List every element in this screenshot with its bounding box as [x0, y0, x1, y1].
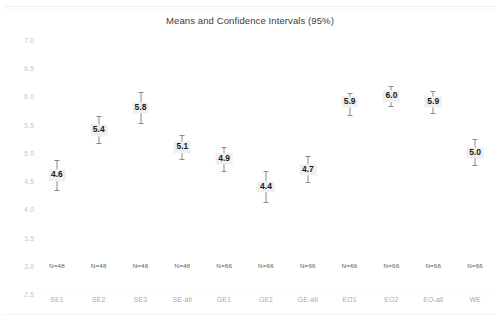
error-bar-SE-all[interactable]: 5.1 — [162, 135, 202, 160]
ci-upper-cap — [473, 139, 478, 140]
ci-lower-cap — [347, 115, 352, 116]
ci-lower-cap — [431, 113, 436, 114]
ci-lower-cap — [96, 143, 101, 144]
ci-upper-cap — [264, 171, 269, 172]
ci-lower-cap — [264, 202, 269, 203]
ci-lower-cap — [389, 106, 394, 107]
mean-value-label-SE-all: 5.1 — [174, 142, 191, 153]
error-bar-series: 4.65.45.85.14.94.44.75.96.05.95.0 — [36, 40, 496, 294]
y-axis-tick-6.5: 6.5 — [10, 65, 34, 72]
sample-size-WE: N=66 — [445, 262, 500, 269]
error-bar-GE-all[interactable]: 4.7 — [288, 156, 328, 183]
mean-value-label-WE: 5.0 — [467, 147, 484, 158]
bottom-divider — [4, 314, 496, 315]
error-bar-SE2[interactable]: 5.4 — [79, 116, 119, 145]
error-bar-EO-all[interactable]: 5.9 — [413, 91, 453, 114]
error-bar-SE3[interactable]: 5.8 — [121, 92, 161, 124]
x-axis-line — [36, 288, 496, 289]
y-axis-tick-3.5: 3.5 — [10, 234, 34, 241]
mean-value-label-SE3: 5.8 — [132, 102, 149, 113]
ci-upper-cap — [180, 135, 185, 136]
plot-area: 4.65.45.85.14.94.44.75.96.05.95.0 — [36, 40, 496, 294]
ci-upper-cap — [96, 116, 101, 117]
ci-upper-cap — [389, 86, 394, 87]
top-divider-secondary — [4, 9, 496, 10]
ci-upper-cap — [305, 156, 310, 157]
ci-upper-cap — [431, 91, 436, 92]
error-bar-EO1[interactable]: 5.9 — [330, 93, 370, 116]
mean-value-label-EO-all: 5.9 — [425, 96, 442, 107]
ci-upper-cap — [138, 92, 143, 93]
y-axis-tick-5.0: 5.0 — [10, 149, 34, 156]
chart-title: Means and Confidence Intervals (95%) — [0, 15, 500, 26]
ci-upper-cap — [347, 93, 352, 94]
ci-lower-cap — [54, 190, 59, 191]
ci-lower-cap — [138, 123, 143, 124]
mean-value-label-EO1: 5.9 — [341, 96, 358, 107]
y-axis-tick-4.0: 4.0 — [10, 206, 34, 213]
y-axis-tick-5.5: 5.5 — [10, 121, 34, 128]
ci-lower-cap — [180, 159, 185, 160]
mean-value-label-SE2: 5.4 — [90, 125, 107, 136]
mean-value-label-SE1: 4.6 — [48, 170, 65, 181]
error-bar-WE[interactable]: 5.0 — [455, 139, 495, 166]
mean-value-label-EO2: 6.0 — [383, 91, 400, 102]
ci-lower-cap — [473, 165, 478, 166]
y-axis-tick-7.0: 7.0 — [10, 37, 34, 44]
error-bar-GE1[interactable]: 4.9 — [204, 147, 244, 172]
mean-value-label-GE1: 4.9 — [216, 153, 233, 164]
error-bar-EO2[interactable]: 6.0 — [371, 86, 411, 107]
chart-canvas: Means and Confidence Intervals (95%) 7.0… — [0, 0, 500, 324]
ci-upper-cap — [222, 147, 227, 148]
error-bar-GE2[interactable]: 4.4 — [246, 171, 286, 203]
y-axis-tick-4.5: 4.5 — [10, 178, 34, 185]
mean-value-label-GE-all: 4.7 — [299, 164, 316, 175]
mean-value-label-GE2: 4.4 — [258, 181, 275, 192]
top-divider — [4, 6, 496, 7]
error-bar-SE1[interactable]: 4.6 — [37, 160, 77, 190]
ci-lower-cap — [305, 182, 310, 183]
y-axis-tick-6.0: 6.0 — [10, 93, 34, 100]
ci-upper-cap — [54, 160, 59, 161]
ci-lower-cap — [222, 171, 227, 172]
category-label-WE[interactable]: WE — [445, 296, 500, 303]
